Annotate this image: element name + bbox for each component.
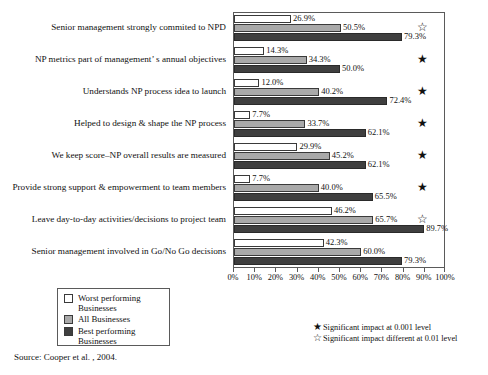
bar-group: 42.3%60.0%79.3%: [234, 237, 444, 269]
bar: [234, 216, 373, 224]
bar: [234, 24, 341, 32]
category-label: Provide strong support & empowerment to …: [4, 182, 226, 193]
axis-tick: [444, 268, 445, 272]
category-label: Senior management involved in Go/No Go d…: [4, 246, 226, 257]
bar: [234, 239, 324, 247]
axis-tick: [424, 268, 425, 272]
bar-value-label: 42.3%: [326, 238, 348, 246]
axis-tick-label: 100%: [435, 273, 455, 283]
chart-legend: Worst performing BusinessesAll Businesse…: [57, 288, 170, 346]
axis-tick-label: 50%: [331, 273, 346, 283]
legend-swatch-icon: [64, 315, 73, 324]
axis-tick-label: 30%: [289, 273, 304, 283]
filled-star-icon: ★: [414, 117, 430, 129]
significance-note-text: Significant impact at 0.001 level: [323, 323, 431, 332]
axis-tick-label: 20%: [268, 273, 283, 283]
legend-label: All Businesses: [78, 314, 166, 324]
bar-value-label: 65.5%: [375, 192, 397, 200]
bar: [234, 143, 297, 151]
filled-star-icon: ★: [414, 53, 430, 65]
axis-tick-label: 80%: [395, 273, 410, 283]
bar-value-label: 40.2%: [321, 87, 343, 95]
bar: [234, 152, 330, 160]
bar: [234, 207, 332, 215]
bar: [234, 111, 250, 119]
bar: [234, 47, 264, 55]
bar-group: 14.3%34.3%50.0%: [234, 45, 444, 77]
bar-value-label: 46.2%: [334, 206, 356, 214]
category-label: Leave day-to-day activities/decisions to…: [4, 214, 226, 225]
legend-item: All Businesses: [64, 314, 166, 324]
axis-tick: [275, 268, 276, 272]
axis-tick-label: 0%: [227, 273, 238, 283]
bar-value-label: 26.9%: [293, 14, 315, 22]
bar-group: 12.0%40.2%72.4%: [234, 77, 444, 109]
bar-value-label: 7.7%: [252, 110, 270, 118]
bar: [234, 88, 319, 96]
axis-tick-label: 70%: [374, 273, 389, 283]
significance-note-text: Significant impact different at 0.01 lev…: [323, 334, 457, 343]
bar-value-label: 60.0%: [363, 247, 385, 255]
bar-group: 46.2%65.7%89.7%: [234, 205, 444, 237]
bar: [234, 79, 259, 87]
source-note: Source: Cooper et al. , 2004.: [14, 352, 117, 363]
axis-tick: [233, 268, 234, 272]
bar: [234, 56, 307, 64]
legend-item: Worst performing Businesses: [64, 293, 166, 313]
filled-star-icon: ★: [414, 149, 430, 161]
bar-value-label: 79.3%: [404, 256, 426, 264]
bar: [234, 97, 387, 105]
axis-tick: [297, 268, 298, 272]
bar-value-label: 34.3%: [309, 55, 331, 63]
x-axis-tick-labels: 0%10%20%30%40%50%60%70%80%90%100%: [233, 273, 445, 285]
axis-tick-label: 10%: [247, 273, 262, 283]
bar-value-label: 89.7%: [426, 224, 448, 232]
open-star-icon: ☆: [414, 21, 430, 33]
bar-value-label: 62.1%: [368, 160, 390, 168]
filled-star-icon: ★: [414, 85, 430, 97]
bar: [234, 15, 291, 23]
bar-value-label: 45.2%: [332, 151, 354, 159]
bar-value-label: 62.1%: [368, 128, 390, 136]
bar: [234, 65, 340, 73]
bar-value-label: 33.7%: [307, 119, 329, 127]
legend-swatch-icon: [64, 294, 73, 303]
bar: [234, 161, 366, 169]
bar: [234, 120, 305, 128]
bar-group: 26.9%50.5%79.3%: [234, 13, 444, 45]
axis-tick: [339, 268, 340, 272]
open-star-icon: ☆: [414, 213, 430, 225]
bar: [234, 33, 402, 41]
axis-tick-label: 60%: [353, 273, 368, 283]
bar-value-label: 12.0%: [261, 78, 283, 86]
bar: [234, 193, 373, 201]
bar-value-label: 50.5%: [343, 23, 365, 31]
bar-value-label: 7.7%: [252, 174, 270, 182]
legend-label: Best performing Businesses: [78, 326, 166, 346]
bar-value-label: 50.0%: [342, 64, 364, 72]
axis-tick-label: 90%: [416, 273, 431, 283]
legend-item: Best performing Businesses: [64, 326, 166, 346]
bar-value-label: 65.7%: [375, 215, 397, 223]
category-label: Understands NP process idea to launch: [4, 86, 226, 97]
bar-group: 7.7%40.0%65.5%: [234, 173, 444, 205]
axis-tick: [381, 268, 382, 272]
axis-tick: [254, 268, 255, 272]
category-label: Senior management strongly commited to N…: [4, 22, 226, 33]
filled-star-icon: ★: [313, 322, 322, 332]
significance-note-row: ☆Significant impact different at 0.01 le…: [313, 333, 488, 344]
axis-tick: [360, 268, 361, 272]
bar-group: 7.7%33.7%62.1%: [234, 109, 444, 141]
bar: [234, 175, 250, 183]
filled-star-icon: ★: [414, 181, 430, 193]
legend-swatch-icon: [64, 327, 73, 336]
bar-value-label: 29.9%: [299, 142, 321, 150]
significance-note-row: ★Significant impact at 0.001 level: [313, 322, 488, 333]
bar: [234, 225, 424, 233]
category-label: We keep score–NP overall results are mea…: [4, 150, 226, 161]
bar-value-label: 72.4%: [389, 96, 411, 104]
bar-value-label: 40.0%: [321, 183, 343, 191]
bar-value-label: 14.3%: [266, 46, 288, 54]
category-label: Helped to design & shape the NP process: [4, 118, 226, 129]
grouped-bar-chart-figure: Senior management strongly commited to N…: [0, 0, 488, 375]
